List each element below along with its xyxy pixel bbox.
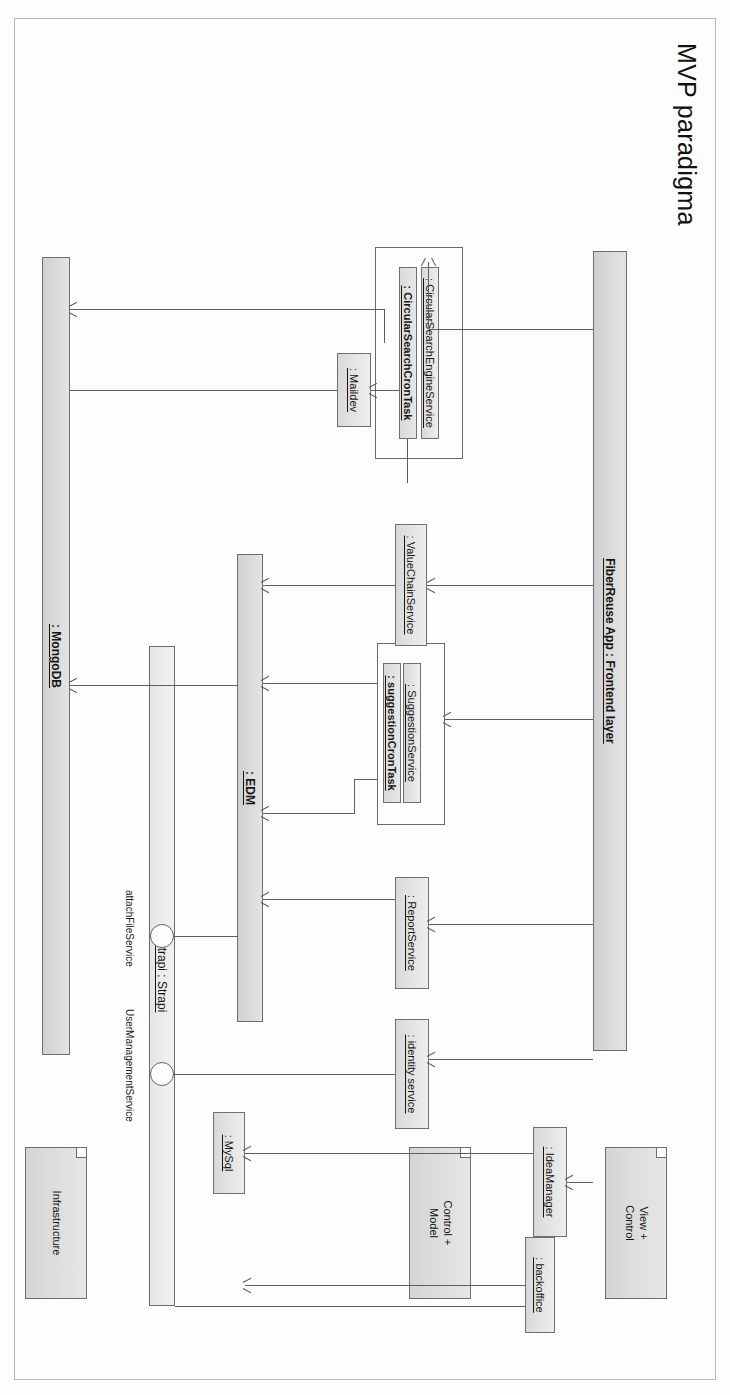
group-circular-search bbox=[375, 247, 463, 459]
node-label-backoffice: : backoffice bbox=[534, 1257, 546, 1312]
diagram-sheet: MVP paradigma View + Control Control + M… bbox=[14, 18, 716, 1380]
node-label-circular-search-engine-service: : CircularSearchEngineService bbox=[424, 278, 436, 428]
edge-backoffice-strapi bbox=[175, 1306, 525, 1307]
edge-frontend-circularsearch-h bbox=[428, 262, 429, 329]
arrowhead-ideamanager bbox=[564, 1177, 575, 1188]
diagram-canvas: MVP paradigma View + Control Control + M… bbox=[15, 19, 715, 1379]
edge-identity-strapi bbox=[173, 1074, 395, 1075]
arrowhead-edm-2 bbox=[260, 678, 271, 689]
edge-suggestion-edm bbox=[263, 683, 377, 684]
node-label-mysql: : MySql bbox=[223, 1135, 235, 1172]
node-label-report-service: : ReportService bbox=[406, 895, 418, 971]
edge-circularsearch-mongodb-h bbox=[384, 309, 385, 343]
arrowhead-suggestion bbox=[442, 714, 453, 725]
node-label-suggestion-service: : SuggestionService bbox=[406, 684, 418, 782]
legend-label-control-model: Control + Model bbox=[426, 1201, 454, 1246]
edge-suggestioncron-edm-v1 bbox=[355, 779, 377, 780]
legend-item-infrastructure: Infrastructure bbox=[25, 1147, 87, 1299]
edge-frontend-circularsearch-v bbox=[429, 329, 593, 330]
arrowhead-circularsearch bbox=[423, 257, 434, 268]
edge-frontend-suggestion-v bbox=[445, 719, 593, 720]
edge-frontend-report-v bbox=[429, 924, 593, 925]
edge-suggestioncron-edm-v2 bbox=[263, 813, 355, 814]
arrowhead-valuechain bbox=[426, 580, 437, 591]
node-label-value-chain-service: : ValueChainService bbox=[405, 536, 417, 635]
edge-circularsearch-mongodb-v bbox=[70, 309, 385, 310]
edge-frontend-valuechain-v bbox=[427, 585, 593, 586]
edge-cron-maildev-h bbox=[407, 439, 408, 483]
interface-user-management-service bbox=[150, 1062, 174, 1086]
interface-label-user-management-service: UserManagementService bbox=[124, 1009, 135, 1122]
diagram-title: MVP paradigma bbox=[672, 43, 701, 226]
node-frontend-layer: FiberReuse App : Frontend layer bbox=[593, 251, 627, 1051]
edge-edm-mongodb bbox=[70, 685, 237, 686]
node-identity-service: : identity service bbox=[395, 1019, 429, 1129]
edge-valuechain-edm bbox=[263, 585, 395, 586]
arrowhead-report bbox=[426, 919, 437, 930]
legend-item-view-control: View + Control bbox=[605, 1147, 667, 1299]
arrowhead-edm-3 bbox=[260, 808, 271, 819]
legend-label-view-control: View + Control bbox=[622, 1205, 650, 1240]
arrowhead-mongodb-1 bbox=[68, 304, 79, 315]
edge-edm-strapi bbox=[173, 936, 237, 937]
edge-ideamanager-mysql bbox=[245, 1153, 533, 1154]
node-label-strapi: Strapi : Strapi bbox=[155, 940, 169, 1013]
node-idea-manager: : IdeaManager bbox=[533, 1127, 567, 1237]
node-value-chain-service: : ValueChainService bbox=[395, 524, 427, 646]
arrowhead-identity bbox=[426, 1054, 437, 1065]
interface-label-attach-file-service: attachFileService bbox=[124, 890, 135, 967]
node-label-frontend-layer: FiberReuse App : Frontend layer bbox=[603, 558, 617, 744]
node-circular-search-engine-service: : CircularSearchEngineService bbox=[421, 267, 439, 439]
node-mongodb: : MongoDB bbox=[42, 257, 70, 1055]
edge-frontend-identity-v bbox=[429, 1059, 593, 1060]
node-report-service: : ReportService bbox=[395, 877, 429, 989]
node-label-mongodb: : MongoDB bbox=[49, 624, 63, 688]
node-edm: : EDM bbox=[237, 554, 263, 1022]
node-label-circular-search-cron-task: : CircularSearchCronTask bbox=[402, 286, 414, 421]
arrowhead-edm-4 bbox=[260, 894, 271, 905]
edge-suggestioncron-edm-h bbox=[354, 779, 355, 813]
node-suggestion-service: : SuggestionService bbox=[403, 663, 421, 803]
node-strapi: Strapi : Strapi bbox=[149, 646, 175, 1306]
node-suggestion-cron-task: : suggestionCronTask bbox=[383, 663, 401, 803]
node-label-maildev: : Maildev bbox=[348, 368, 360, 412]
legend-item-control-model: Control + Model bbox=[409, 1147, 471, 1299]
arrowhead-mysql-1 bbox=[242, 1148, 253, 1159]
node-maildev: : Maildev bbox=[337, 353, 371, 427]
arrowhead-edm-1 bbox=[260, 580, 271, 591]
arrowhead-mongodb-2 bbox=[68, 680, 79, 691]
arrowhead-maildev bbox=[368, 385, 379, 396]
edge-maildev-mongodb bbox=[70, 390, 337, 391]
diagram-page: MVP paradigma View + Control Control + M… bbox=[0, 0, 730, 1395]
edge-backoffice-mysql bbox=[245, 1285, 525, 1286]
node-label-edm: : EDM bbox=[243, 771, 257, 805]
arrowhead-mysql-2 bbox=[242, 1280, 253, 1291]
node-mysql: : MySql bbox=[213, 1112, 245, 1194]
legend-label-infrastructure: Infrastructure bbox=[49, 1191, 63, 1256]
node-circular-search-cron-task: : CircularSearchCronTask bbox=[399, 267, 417, 439]
node-backoffice: : backoffice bbox=[525, 1237, 555, 1333]
node-label-suggestion-cron-task: : suggestionCronTask bbox=[386, 675, 398, 790]
edge-report-edm bbox=[263, 899, 395, 900]
node-label-idea-manager: : IdeaManager bbox=[544, 1147, 556, 1218]
interface-attach-file-service bbox=[150, 924, 174, 948]
node-label-identity-service: : identity service bbox=[406, 1035, 418, 1114]
